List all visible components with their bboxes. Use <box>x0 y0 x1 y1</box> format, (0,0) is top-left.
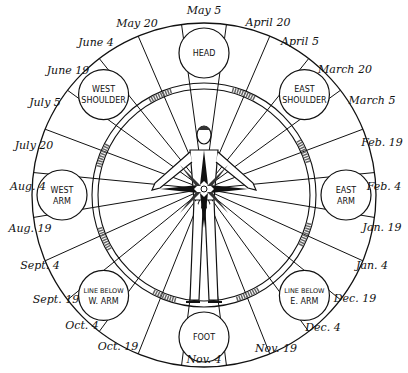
date-label: June 4 <box>76 36 114 49</box>
date-label: May 20 <box>115 17 158 30</box>
date-label: June 19 <box>45 64 90 77</box>
region-east-shoulder: EASTSHOULDER <box>279 70 329 120</box>
date-label: Aug. 19 <box>7 222 51 235</box>
date-label: Aug. 4 <box>9 180 46 193</box>
region-label: SHOULDER <box>81 96 126 105</box>
date-label: Sept. 19 <box>33 293 80 306</box>
date-label: Nov. 19 <box>254 342 297 355</box>
region-label: WEST <box>92 85 115 94</box>
date-label: Oct. 19 <box>98 340 139 353</box>
date-label: May 5 <box>186 4 222 17</box>
date-label: July 5 <box>27 96 61 109</box>
region-label: EAST <box>294 85 315 94</box>
date-label: Feb. 19 <box>360 136 403 149</box>
region-east-arm: EASTARM <box>321 170 371 220</box>
region-west-arm: WESTARM <box>37 170 87 220</box>
date-label: Dec. 19 <box>333 292 376 305</box>
compass-star-icon <box>160 150 248 228</box>
region-label: HEAD <box>193 49 216 58</box>
date-label: April 5 <box>280 35 319 48</box>
region-line-below-w-arm: LINE BELOWW. ARM <box>79 270 129 320</box>
region-west-shoulder: WESTSHOULDER <box>79 70 129 120</box>
region-label: LINE BELOW <box>284 287 325 295</box>
region-label: LINE BELOW <box>84 287 125 295</box>
date-label: Jan. 19 <box>360 221 401 234</box>
date-label: Dec. 4 <box>304 321 340 334</box>
region-label: ARM <box>337 197 355 206</box>
date-label: Oct. 4 <box>65 319 99 332</box>
region-label: SHOULDER <box>282 96 327 105</box>
region-label: E. ARM <box>290 297 318 306</box>
date-label: Feb. 4 <box>366 180 402 193</box>
date-label: Sept. 4 <box>20 259 60 272</box>
region-line-below-e-arm: LINE BELOWE. ARM <box>279 270 329 320</box>
date-label: March 5 <box>348 94 396 107</box>
zodiac-wheel-diagram: HEADEASTSHOULDEREASTARMLINE BELOWE. ARMF… <box>0 0 408 373</box>
date-label: Jan. 4 <box>354 259 388 272</box>
date-label: July 20 <box>13 139 54 152</box>
region-label: W. ARM <box>89 297 119 306</box>
region-label: WEST <box>51 186 74 195</box>
date-label: March 20 <box>317 63 372 76</box>
date-label: April 20 <box>245 16 291 29</box>
date-label: Nov. 4 <box>185 353 221 366</box>
region-head: HEAD <box>179 28 229 78</box>
region-label: FOOT <box>193 333 215 342</box>
region-label: ARM <box>53 197 71 206</box>
region-label: EAST <box>336 186 357 195</box>
